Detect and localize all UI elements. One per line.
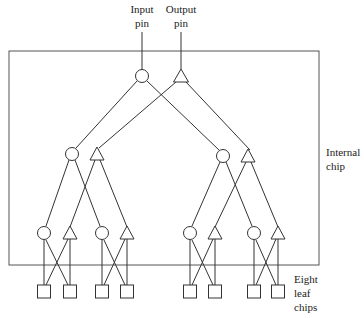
output-pin-label-line1: Output xyxy=(166,3,197,15)
fat-tree-diagram: Input pin Output pin Internal chip Eight… xyxy=(0,0,364,318)
internal-chip-label-line2: chip xyxy=(326,160,345,172)
level3-output-triangle-icon-1 xyxy=(63,226,77,239)
level3-output-triangle-icon-3 xyxy=(208,226,222,239)
root-input-node-circle-icon xyxy=(136,70,149,83)
level2-left-output-triangle-icon xyxy=(90,147,104,160)
root-output-node-triangle-icon xyxy=(174,69,189,82)
leaf-chips xyxy=(38,285,285,298)
root-to-level2-wires xyxy=(76,81,250,150)
level3-input-circle-icon-1 xyxy=(38,227,51,240)
level3-output-triangle-icon-2 xyxy=(120,226,134,239)
leaf-chip-square-icon-5 xyxy=(184,285,197,298)
level2-left-wires xyxy=(46,160,127,227)
level3-input-circle-icon-4 xyxy=(248,227,261,240)
leaf-chip-square-icon-1 xyxy=(38,285,51,298)
leaf-chip-square-icon-8 xyxy=(272,285,285,298)
level2-right-input-circle-icon xyxy=(217,150,230,163)
internal-chip-label-line1: Internal xyxy=(326,146,360,158)
level2-right-wires xyxy=(192,162,278,227)
level2-right-output-triangle-icon xyxy=(241,149,255,162)
leaf-chips-label-line3: chips xyxy=(294,301,317,313)
level3-output-triangle-icon-4 xyxy=(271,226,285,239)
leaf-chip-square-icon-2 xyxy=(64,285,77,298)
internal-chip-box xyxy=(9,51,319,265)
output-pin-label-line2: pin xyxy=(174,17,189,29)
leaf-chips-label-line1: Eight xyxy=(294,273,318,285)
level3-input-circle-icon-2 xyxy=(96,227,109,240)
level3-input-circle-icon-3 xyxy=(184,227,197,240)
leaf-chip-square-icon-3 xyxy=(96,285,109,298)
leaf-chip-square-icon-4 xyxy=(121,285,134,298)
leaf-chip-square-icon-6 xyxy=(209,285,222,298)
input-pin-label-line1: Input xyxy=(130,3,153,15)
leaf-wires xyxy=(44,239,278,285)
leaf-chip-square-icon-7 xyxy=(248,285,261,298)
leaf-chips-label-line2: leaf xyxy=(294,287,311,299)
input-pin-label-line2: pin xyxy=(135,17,150,29)
level2-left-input-circle-icon xyxy=(66,148,79,161)
